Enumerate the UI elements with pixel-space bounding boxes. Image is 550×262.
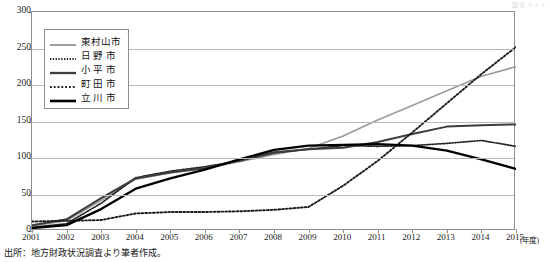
legend-label: 日 野 市: [81, 48, 116, 62]
gridline-50: [32, 195, 514, 196]
legend-label: 東村山市: [81, 34, 121, 48]
legend-label: 小 平 市: [81, 62, 116, 76]
legend-item-東村山市[interactable]: 東村山市: [50, 34, 121, 48]
series-line-日野市: [32, 140, 516, 227]
y-tick-label-100: 100: [5, 152, 31, 162]
y-tick-label-150: 150: [5, 116, 31, 126]
legend-swatch-icon: [50, 64, 76, 74]
legend-item-日野市[interactable]: 日 野 市: [50, 48, 121, 62]
legend-item-小平市[interactable]: 小 平 市: [50, 62, 121, 76]
legend-label: 立 川 市: [81, 90, 116, 104]
y-tick-label-250: 250: [5, 43, 31, 53]
legend-swatch-icon: [50, 92, 76, 102]
legend-item-立川市[interactable]: 立 川 市: [50, 90, 121, 104]
y-tick-label-300: 300: [5, 6, 31, 16]
figure-number-note: 図表 3-4-1: [512, 0, 547, 9]
chart-legend: 東村山市日 野 市小 平 市町 田 市立 川 市: [44, 29, 129, 109]
series-line-立川市: [32, 144, 516, 228]
y-tick-label-200: 200: [5, 79, 31, 89]
x-axis-unit-label: (年度): [520, 234, 539, 245]
source-note: 出所：地方財政状況調査より筆者作成。: [4, 246, 166, 259]
legend-swatch-icon: [50, 78, 76, 88]
legend-swatch-icon: [50, 36, 76, 46]
gridline-150: [32, 122, 514, 123]
gridline-100: [32, 158, 514, 159]
legend-swatch-icon: [50, 50, 76, 60]
figure-container: 図表 3-4-1 050100150200250300 200120022003…: [0, 0, 550, 262]
legend-item-町田市[interactable]: 町 田 市: [50, 76, 121, 90]
y-tick-label-50: 50: [5, 189, 31, 199]
legend-label: 町 田 市: [81, 76, 116, 90]
